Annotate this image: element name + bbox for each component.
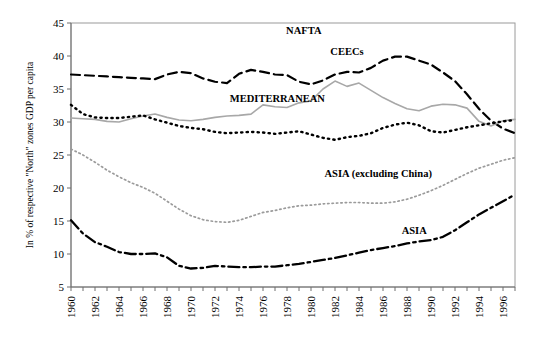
- series-label-asia: ASIA: [402, 225, 428, 236]
- chart-background: [0, 0, 539, 348]
- y-tick-label: 20: [53, 182, 65, 194]
- x-tick-label: 1970: [185, 296, 197, 319]
- y-axis-tick-labels: 51015202530354045: [53, 17, 65, 293]
- y-tick-label: 45: [53, 17, 65, 29]
- series-label-asia-excluding-china: ASIA (excluding China): [325, 168, 433, 180]
- x-tick-label: 1968: [161, 296, 173, 319]
- y-tick-label: 35: [53, 83, 65, 95]
- y-tick-label: 40: [53, 50, 65, 62]
- x-tick-label: 1960: [65, 296, 77, 319]
- x-tick-label: 1986: [377, 296, 389, 319]
- line-chart: 51015202530354045 1960196219641966196819…: [0, 0, 539, 348]
- x-tick-label: 1962: [89, 296, 101, 318]
- x-tick-label: 1988: [401, 296, 413, 319]
- x-tick-label: 1964: [113, 296, 125, 319]
- y-tick-label: 25: [53, 149, 65, 161]
- x-tick-label: 1980: [305, 296, 317, 319]
- series-label-mediterranean: MEDITERRANEAN: [230, 93, 326, 104]
- x-tick-label: 1984: [353, 296, 365, 319]
- chart-container: 51015202530354045 1960196219641966196819…: [0, 0, 539, 348]
- x-tick-label: 1974: [233, 296, 245, 319]
- x-tick-label: 1982: [329, 296, 341, 318]
- x-tick-label: 1972: [209, 296, 221, 318]
- y-tick-label: 30: [53, 116, 65, 128]
- x-tick-label: 1978: [281, 296, 293, 319]
- x-tick-label: 1996: [497, 296, 509, 319]
- y-tick-label: 10: [53, 248, 65, 260]
- x-tick-label: 1994: [473, 296, 485, 319]
- x-tick-label: 1966: [137, 296, 149, 319]
- x-tick-label: 1990: [425, 296, 437, 319]
- y-axis-title-text: In % of respective "North" zones GDP per…: [25, 61, 35, 248]
- y-tick-label: 15: [53, 215, 65, 227]
- y-tick-label: 5: [59, 281, 65, 293]
- series-label-ceecs: CEECs: [330, 46, 363, 57]
- series-label-nafta: NAFTA: [286, 25, 322, 36]
- y-axis-title: In % of respective "North" zones GDP per…: [25, 61, 35, 248]
- x-tick-label: 1992: [449, 296, 461, 318]
- x-tick-label: 1976: [257, 296, 269, 319]
